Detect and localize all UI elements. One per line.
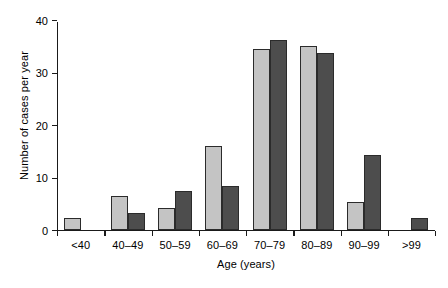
x-category-label: 70–79 — [254, 239, 285, 251]
bar — [300, 46, 317, 230]
x-tick — [341, 231, 342, 236]
bar — [158, 208, 175, 230]
x-category-label: 90–99 — [349, 239, 380, 251]
x-tick — [57, 231, 58, 236]
x-tick — [435, 231, 436, 236]
x-category-label: 50–59 — [160, 239, 191, 251]
x-category-label: 40–49 — [112, 239, 143, 251]
bar — [175, 191, 192, 230]
bar — [364, 155, 381, 230]
bar — [111, 196, 128, 230]
x-tick — [246, 231, 247, 236]
bar — [347, 202, 364, 230]
bar — [270, 40, 287, 230]
bar — [205, 146, 222, 230]
x-tick — [104, 231, 105, 236]
y-tick-label: 0 — [42, 225, 48, 237]
x-tick — [388, 231, 389, 236]
y-tick-label: 10 — [36, 172, 48, 184]
x-tick — [293, 231, 294, 236]
bar — [222, 186, 239, 230]
bar — [64, 218, 81, 230]
y-tick-label: 30 — [36, 67, 48, 79]
x-category-label: 80–89 — [301, 239, 332, 251]
bars-group — [57, 20, 435, 230]
x-category-label: 60–69 — [207, 239, 238, 251]
bar — [411, 218, 428, 230]
bar — [253, 49, 270, 230]
y-tick-label: 40 — [36, 15, 48, 27]
y-tick-label: 20 — [36, 120, 48, 132]
y-axis-title: Number of cases per year — [13, 0, 35, 231]
x-tick — [152, 231, 153, 236]
x-axis-title: Age (years) — [57, 258, 435, 270]
bar — [128, 213, 145, 230]
x-tick — [199, 231, 200, 236]
x-category-label: <40 — [71, 239, 90, 251]
bar-chart-figure: Number of cases per year 010203040 <4040… — [0, 0, 448, 288]
plot-area: 010203040 <4040–4950–5960–6970–7980–8990… — [57, 20, 435, 231]
bar — [317, 53, 334, 230]
x-category-label: >99 — [402, 239, 421, 251]
